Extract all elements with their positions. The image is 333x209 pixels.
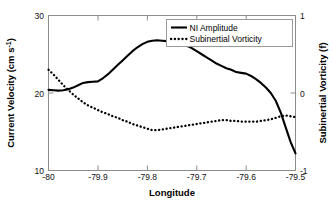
legend-label-subinertial-vorticity: Subinertial Vorticity (190, 34, 263, 44)
y2-tick-label-0: 0 (300, 89, 305, 99)
x-tick-label-5: -79.5 (286, 172, 306, 182)
y-axis-label-tail: ) (5, 38, 16, 41)
x-tick-label-4: -79.6 (237, 172, 257, 182)
y-tick-label-20: 20 (35, 89, 45, 99)
chart-legend: NI Amplitude Subinertial Vorticity (167, 20, 293, 47)
x-tick-label-2: -79.8 (138, 172, 158, 182)
y-axis-label: Current Velocity (cm s-1) (5, 38, 16, 148)
series-subinertial-vorticity (49, 70, 296, 130)
y2-axis-label-text: Subinertial Vorticity (f) (317, 42, 328, 143)
x-tick-label-1: -79.9 (88, 172, 108, 182)
series-ni-amplitude (49, 40, 296, 153)
y-axis-label-main: Current Velocity (cm s (5, 48, 16, 148)
x-axis-label: Longitude (149, 187, 195, 198)
chart-figure: 30 20 10 1 0 -1 -80 -79.9 -79.8 -79.7 -7… (0, 0, 333, 209)
svg-text:Current Velocity (cm s-1): Current Velocity (cm s-1) (5, 38, 16, 148)
x-tick-label-0: -80 (42, 172, 55, 182)
y2-axis-label: Subinertial Vorticity (f) (317, 42, 328, 143)
y2-tick-label-1: 1 (300, 11, 305, 21)
x-tick-label-3: -79.7 (187, 172, 207, 182)
legend-label-ni-amplitude: NI Amplitude (190, 23, 238, 33)
y-tick-label-30: 30 (35, 11, 45, 21)
chart-svg: 30 20 10 1 0 -1 -80 -79.9 -79.8 -79.7 -7… (0, 0, 333, 209)
